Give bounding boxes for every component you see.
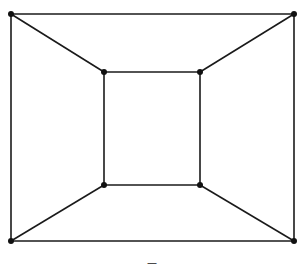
edge-outer-br-inner-br (200, 185, 294, 241)
node-inner-bl (101, 182, 107, 188)
node-inner-br (197, 182, 203, 188)
node-inner-tr (197, 69, 203, 75)
figure-caption: — (0, 258, 304, 268)
node-outer-tr (291, 11, 297, 17)
node-outer-br (291, 238, 297, 244)
cube-graph-diagram (0, 0, 304, 268)
node-outer-tl (8, 11, 14, 17)
edge-outer-tl-inner-tl (11, 14, 104, 72)
edge-outer-tr-inner-tr (200, 14, 294, 72)
edge-outer-bl-inner-bl (11, 185, 104, 241)
node-outer-bl (8, 238, 14, 244)
node-inner-tl (101, 69, 107, 75)
graph-nodes (8, 11, 297, 244)
graph-edges (11, 14, 294, 241)
